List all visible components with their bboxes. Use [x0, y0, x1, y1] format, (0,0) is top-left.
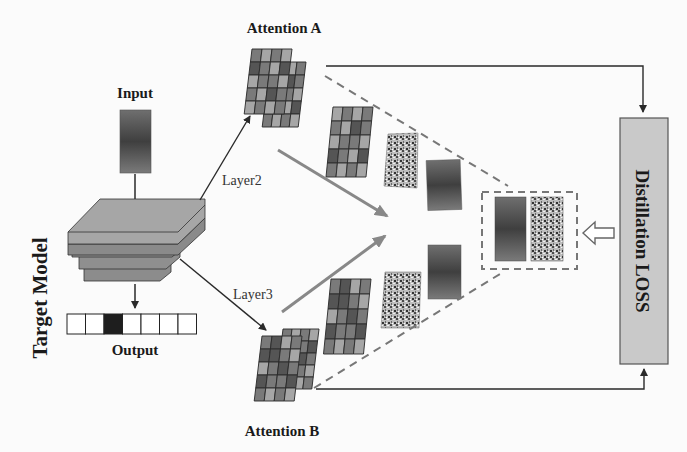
attention-cell — [360, 121, 371, 135]
layer3-label: Layer3 — [233, 287, 273, 302]
attention-cell — [280, 49, 292, 62]
attention-a-single-map — [326, 107, 373, 177]
attention-cell — [359, 135, 370, 149]
attention-cell — [349, 135, 360, 149]
output-label: Output — [112, 342, 159, 358]
attention-cell — [279, 62, 291, 75]
attention-cell — [276, 88, 288, 101]
attention-cell — [337, 149, 348, 163]
attention-cell — [295, 62, 306, 75]
attention-cell — [274, 101, 286, 114]
attention-cell — [330, 279, 342, 294]
input-image — [120, 110, 151, 173]
attention-cell — [328, 294, 340, 309]
attention-cell — [362, 107, 373, 121]
attention-cell — [289, 349, 301, 362]
attention-b-maps — [254, 329, 319, 401]
attention-cell — [348, 294, 360, 309]
attention-cell — [335, 324, 347, 339]
attention-cell — [345, 324, 357, 339]
attention-cell — [338, 294, 350, 309]
output-cell — [141, 314, 160, 334]
attention-cell — [309, 329, 319, 341]
attention-cell — [336, 163, 347, 177]
attention-cell — [342, 107, 353, 121]
attention-a-maps — [244, 49, 306, 127]
attention-cell — [355, 324, 367, 339]
attention-cell — [340, 279, 352, 294]
attention-cell — [287, 362, 299, 375]
output-cell — [178, 314, 197, 334]
attention-cell — [350, 279, 362, 294]
masked-image-b — [381, 272, 421, 328]
output-cell — [160, 314, 179, 334]
fused-person-image — [495, 197, 526, 261]
attention-cell — [325, 324, 337, 339]
input-label: Input — [117, 85, 153, 101]
attention-cell — [340, 121, 351, 135]
attention-cell — [346, 163, 357, 177]
attention-b-single-map — [324, 279, 372, 354]
attention-cell — [358, 294, 370, 309]
attention-cell — [339, 135, 350, 149]
attention-cell — [337, 309, 349, 324]
attention-cell — [350, 121, 361, 135]
attention-cell — [357, 149, 368, 163]
attention-cell — [347, 309, 359, 324]
attention-cell — [284, 388, 296, 401]
person-image-b — [428, 245, 461, 299]
distillation-loss-label: Distillation LOSS — [632, 169, 653, 312]
attention-b-label: Attention B — [245, 423, 320, 439]
attention-cell — [327, 309, 339, 324]
attention-cell — [344, 339, 356, 354]
attention-cell — [306, 353, 316, 365]
attention-cell — [307, 341, 317, 353]
attention-a-label: Attention A — [247, 20, 322, 36]
layer2-label: Layer2 — [222, 173, 262, 188]
attention-cell — [277, 75, 289, 88]
attention-cell — [289, 114, 300, 127]
target-model-text: Target Model — [28, 237, 52, 358]
attention-b-to-loss-line — [316, 369, 644, 389]
attention-cell — [332, 107, 343, 121]
attention-cell — [330, 121, 341, 135]
attention-cell — [354, 339, 366, 354]
output-cell — [86, 314, 105, 334]
attention-cell — [352, 107, 363, 121]
hollow-left-arrow-icon — [583, 222, 614, 244]
attention-cell — [291, 101, 302, 114]
diagram-svg: Target Model Input Output Layer2 Layer3 … — [0, 0, 687, 452]
target-model-label: Target Model — [28, 237, 52, 358]
attention-cell — [304, 365, 314, 377]
attention-cell — [326, 163, 337, 177]
attention-cell — [324, 339, 336, 354]
attention-cell — [290, 336, 302, 349]
attention-cell — [347, 149, 358, 163]
attention-cell — [357, 309, 369, 324]
attention-cell — [294, 75, 305, 88]
attention-cell — [286, 375, 298, 388]
person-image-a — [426, 159, 462, 210]
attention-cell — [292, 88, 303, 101]
fused-noise-image — [531, 197, 563, 261]
output-cell — [123, 314, 142, 334]
diagram-canvas: Target Model Input Output Layer2 Layer3 … — [0, 0, 687, 452]
output-vector — [67, 314, 197, 334]
output-cell — [67, 314, 86, 334]
attention-cell — [356, 163, 367, 177]
attention-cell — [360, 279, 372, 294]
attention-cell — [327, 149, 338, 163]
attention-cell — [334, 339, 346, 354]
attention-cell — [329, 135, 340, 149]
attention-cell — [303, 377, 313, 389]
masked-image-a — [384, 133, 418, 188]
target-model-stack — [68, 199, 205, 281]
output-cell — [104, 314, 123, 334]
